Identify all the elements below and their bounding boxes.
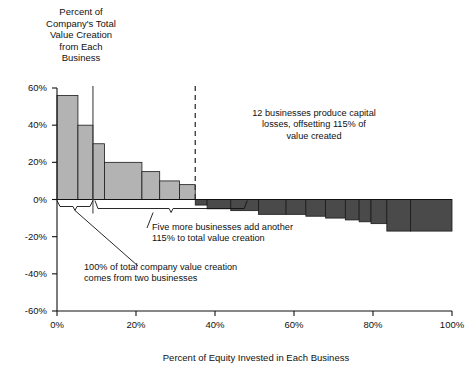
bar-15 [345, 200, 359, 220]
bar-13 [306, 200, 326, 217]
x-tick-label: 60% [274, 319, 314, 330]
bar-9 [207, 200, 231, 209]
y-tick-label: 60% [9, 82, 47, 93]
bar-11 [258, 200, 286, 215]
y-tick-label: -40% [9, 268, 47, 279]
y-tick-label: -20% [9, 231, 47, 242]
y-tick-label: -60% [9, 305, 47, 316]
x-tick-label: 100% [432, 319, 472, 330]
bar-4 [104, 162, 142, 199]
bar-10 [231, 200, 259, 211]
bar-17 [371, 200, 387, 224]
x-tick-label: 20% [116, 319, 156, 330]
brace-two-businesses [57, 201, 93, 211]
bar-16 [359, 200, 371, 222]
annotation-five-more-businesses: Five more businesses add another 115% to… [152, 222, 338, 245]
y-tick-label: 20% [9, 156, 47, 167]
bar-8 [195, 200, 207, 206]
bar-7 [179, 185, 195, 200]
chart-root: Percent of Company's Total Value Creatio… [0, 0, 472, 376]
leader-line-two-businesses [75, 211, 138, 267]
bar-12 [286, 200, 306, 215]
bar-3 [93, 144, 104, 200]
bar-14 [326, 200, 346, 219]
x-tick-label: 0% [37, 319, 77, 330]
annotation-two-businesses: 100% of total company value creation com… [84, 262, 284, 285]
x-tick-label: 40% [195, 319, 235, 330]
bar-2 [78, 125, 93, 199]
annotation-capital-losses: 12 businesses produce capital losses, of… [226, 108, 402, 142]
y-tick-label: 40% [9, 119, 47, 130]
bar-19 [411, 200, 452, 232]
x-tick-label: 80% [353, 319, 393, 330]
x-axis-title: Percent of Equity Invested in Each Busin… [56, 352, 456, 363]
bar-1 [57, 95, 78, 199]
bar-18 [387, 200, 411, 232]
bar-5 [142, 172, 160, 200]
y-tick-label: 0% [9, 194, 47, 205]
bar-6 [160, 181, 180, 200]
